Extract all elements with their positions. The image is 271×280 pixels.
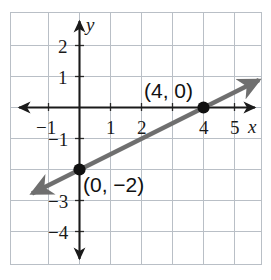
y-tick-label-neg1: −1 — [48, 130, 68, 149]
graph-canvas — [0, 0, 271, 280]
annotation-point-4-0: (4, 0) — [144, 80, 193, 101]
x-tick-label-4: 4 — [199, 118, 209, 137]
x-axis-label: x — [248, 117, 256, 136]
x-tick-label-1: 1 — [106, 118, 116, 137]
x-tick-label-5: 5 — [230, 118, 240, 137]
annotation-point-0-neg2: (0, −2) — [83, 174, 144, 195]
y-tick-label-neg4: −4 — [48, 223, 68, 242]
x-tick-label-2: 2 — [137, 118, 147, 137]
coordinate-plane-figure: −1 1 2 4 5 2 1 −1 −3 −4 x y (4, 0) (0, −… — [0, 0, 271, 280]
y-tick-label-2: 2 — [58, 37, 68, 56]
y-tick-label-1: 1 — [58, 68, 68, 87]
y-tick-label-neg3: −3 — [48, 192, 68, 211]
y-axis-label: y — [86, 15, 94, 34]
data-point-4-0 — [197, 101, 209, 113]
